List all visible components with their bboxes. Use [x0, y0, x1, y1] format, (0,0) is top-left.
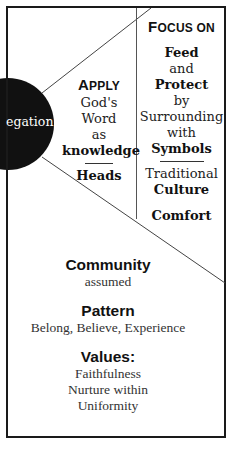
focus-comfort: Comfort: [137, 208, 226, 224]
apply-heads: Heads: [62, 168, 136, 184]
focus-section: FOCUS ON Feed and Protect by Surrounding…: [137, 18, 226, 224]
values-item: Faithfulness: [8, 366, 208, 382]
values-heading: Values:: [8, 348, 208, 366]
apply-line-2: Word: [62, 111, 136, 127]
focus-surrounding: Surrounding: [137, 109, 226, 125]
pattern-sub: Belong, Believe, Experience: [8, 320, 208, 336]
community-sub: assumed: [8, 274, 208, 290]
values-item: Nurture within: [8, 382, 208, 398]
focus-feed: Feed: [137, 45, 226, 61]
focus-by: by: [137, 93, 226, 109]
focus-protect: Protect: [137, 77, 226, 93]
values-item: Uniformity: [8, 398, 208, 414]
apply-line-1: God's: [62, 95, 136, 111]
focus-title: FOCUS ON: [137, 18, 226, 37]
pattern-heading: Pattern: [8, 302, 208, 320]
community-heading: Community: [8, 256, 208, 274]
bottom-section: Community assumed Pattern Belong, Believ…: [8, 256, 208, 414]
focus-traditional: Traditional: [137, 166, 226, 182]
focus-culture: Culture: [137, 182, 226, 198]
apply-knowledge: knowledge: [62, 143, 136, 159]
focus-and: and: [137, 61, 226, 77]
apply-title: APPLY: [62, 76, 136, 95]
focus-divider: [160, 161, 204, 162]
apply-divider: [85, 163, 113, 164]
focus-symbols: Symbols: [137, 141, 226, 157]
circle-label: egation: [6, 114, 54, 129]
focus-with: with: [137, 125, 226, 141]
apply-section: APPLY God's Word as knowledge Heads: [62, 76, 136, 184]
apply-line-3: as: [62, 127, 136, 143]
